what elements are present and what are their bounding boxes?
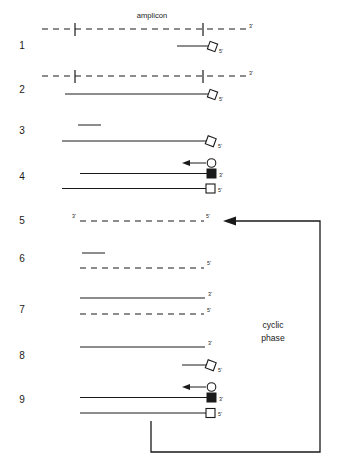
row2-diamond-icon: [207, 89, 217, 99]
row4-3prime-label: 3': [219, 172, 223, 178]
row4-circle-icon: [207, 159, 216, 168]
row9-3prime-label: 3': [219, 396, 223, 402]
row4-extension-arrow-head: [182, 160, 190, 166]
row9-circle-icon: [207, 383, 216, 392]
row8-5prime-label: 5': [218, 367, 222, 373]
row-number-8: 8: [19, 350, 25, 361]
row-number-2: 2: [19, 84, 25, 95]
row4-open-square-icon: [206, 184, 215, 193]
row-number-6: 6: [19, 253, 25, 264]
pcr-cycle-diagram: 1 amplicon 3' 5' 2 3' 5' 3 5' 4 3': [0, 0, 338, 471]
row-number-5: 5: [19, 215, 25, 226]
row6-5prime-label: 5': [207, 260, 211, 266]
diagram-canvas: 1 amplicon 3' 5' 2 3' 5' 3 5' 4 3': [0, 0, 338, 471]
row3-diamond-icon: [205, 136, 216, 147]
row-number-4: 4: [19, 171, 25, 182]
row5-5prime-label: 5': [206, 213, 210, 219]
row8-diamond-icon: [205, 360, 216, 371]
cyclic-phase-label-line1: cyclic: [262, 320, 284, 330]
cyclic-phase-label-line2: phase: [261, 333, 285, 343]
row5-3prime-label: 3': [72, 213, 76, 219]
row7-3prime-label: 3': [208, 291, 212, 297]
row8-3prime-label: 3': [208, 340, 212, 346]
row2-primer-5prime-label: 5': [219, 96, 223, 102]
row3-5prime-label: 5': [218, 143, 222, 149]
row2-template-3prime-label: 3': [249, 70, 253, 76]
row9-extension-arrow-head: [182, 384, 190, 390]
row4-filled-square-icon: [207, 169, 216, 178]
row1-template-3prime-label: 3': [249, 23, 253, 29]
row1-primer-5prime-label: 5': [219, 48, 223, 54]
row-number-3: 3: [19, 125, 25, 136]
row9-filled-square-icon: [207, 393, 216, 402]
row9-5prime-label: 5': [218, 411, 222, 417]
row7-5prime-label: 5': [207, 307, 211, 313]
cyclic-phase-arrow-head: [223, 217, 236, 226]
row-number-1: 1: [19, 40, 25, 51]
row-number-7: 7: [19, 304, 25, 315]
row9-open-square-icon: [206, 409, 215, 418]
amplicon-label: amplicon: [137, 11, 167, 20]
row-number-9: 9: [19, 394, 25, 405]
cyclic-phase-loop-path: [151, 221, 320, 452]
row4-5prime-label: 5': [218, 187, 222, 193]
row1-diamond-icon: [207, 41, 217, 51]
